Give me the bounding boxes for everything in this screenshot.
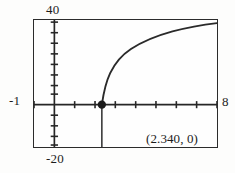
- curve-path: [102, 23, 217, 105]
- graph-plot-area: [34, 20, 217, 147]
- calculator-viewport-frame: (2.340, 0): [33, 19, 218, 148]
- y-min-label: -20: [46, 152, 64, 165]
- graph-screenshot: (2.340, 0) 40 -20 -1 8: [0, 0, 235, 173]
- intercept-point-marker: [98, 101, 106, 109]
- y-max-label: 40: [46, 3, 59, 16]
- x-min-label: -1: [9, 94, 20, 107]
- intercept-point-label: (2.340, 0): [146, 132, 198, 145]
- x-max-label: 8: [222, 95, 229, 108]
